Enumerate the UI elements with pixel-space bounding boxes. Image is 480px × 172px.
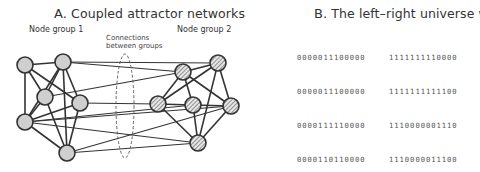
matrix-row: 1110000011100 [389, 154, 458, 165]
node-g2-3 [150, 96, 166, 112]
matrix-row: 1111111110000 [389, 52, 458, 63]
matrix-row: 0000011100000 [297, 86, 366, 97]
group1-edges [25, 62, 80, 153]
matrix-row: 0000011100000 [297, 52, 366, 63]
node-g2-4 [185, 97, 201, 113]
matrix-row: 1110000001110 [389, 120, 458, 131]
matrix-row: 0000110110000 [297, 154, 366, 165]
network-diagram [0, 0, 250, 172]
panel-b-letter: B. [314, 6, 327, 21]
node-g1-2 [55, 54, 71, 70]
letter-b-matrix: 1111111110000 1111111111100 111000000111… [389, 29, 458, 172]
node-g2-1 [175, 64, 191, 80]
node-g1-1 [17, 57, 33, 73]
panel-b-title: B. The left–right universe with letters [314, 6, 480, 21]
node-g1-4 [72, 95, 88, 111]
node-g1-6 [59, 145, 75, 161]
matrix-row: 1111111111100 [389, 86, 458, 97]
node-g2-2 [210, 55, 226, 71]
node-g2-6 [190, 135, 206, 151]
node-g1-5 [17, 114, 33, 130]
panel-b-title-text: The left–right universe with letters [331, 6, 480, 21]
letter-a-matrix: 0000011100000 0000011100000 000011111000… [297, 29, 366, 172]
node-g2-5 [223, 98, 239, 114]
connections-ellipse [116, 54, 134, 158]
node-g1-3 [37, 89, 53, 105]
matrix-row: 0000111110000 [297, 120, 366, 131]
group1-nodes [17, 54, 88, 161]
